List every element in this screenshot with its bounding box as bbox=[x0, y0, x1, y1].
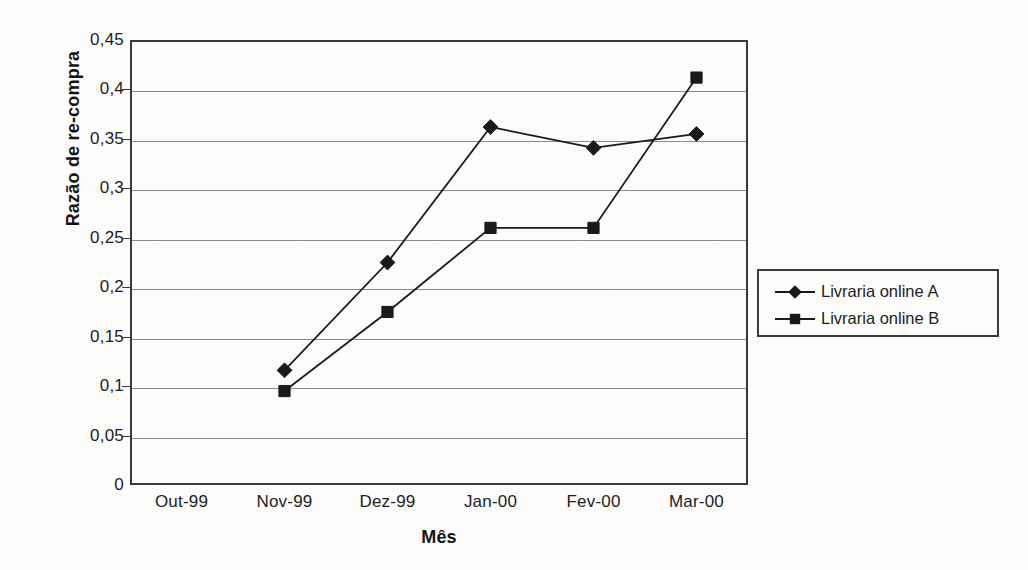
x-axis-title: Mês bbox=[130, 527, 748, 548]
chart-legend: Livraria online ALivraria online B bbox=[757, 269, 999, 337]
diamond-marker-icon bbox=[773, 284, 817, 300]
x-axis-tick-label: Dez-99 bbox=[328, 492, 448, 512]
square-marker-icon bbox=[691, 72, 702, 83]
square-marker-icon bbox=[485, 222, 496, 233]
legend-label: Livraria online A bbox=[821, 282, 938, 301]
diamond-marker-icon bbox=[689, 127, 704, 142]
square-marker-icon bbox=[279, 385, 290, 396]
series-line bbox=[285, 127, 697, 370]
y-axis-tick-label: 0 bbox=[24, 475, 124, 495]
x-axis-tick-label: Nov-99 bbox=[225, 492, 345, 512]
y-axis-tick-label: 0,1 bbox=[24, 376, 124, 396]
line-chart: 00,050,10,150,20,250,30,350,40,45 Razão … bbox=[0, 0, 1028, 570]
legend-item-b[interactable]: Livraria online B bbox=[759, 305, 997, 332]
legend-label: Livraria online B bbox=[821, 309, 939, 328]
y-axis-tick-label: 0,2 bbox=[24, 277, 124, 297]
diamond-marker-icon bbox=[483, 120, 498, 135]
y-axis-title: Razão de re-compra bbox=[63, 4, 84, 274]
scanned-page: 00,050,10,150,20,250,30,350,40,45 Razão … bbox=[0, 0, 1028, 570]
square-marker-icon bbox=[773, 311, 817, 327]
x-axis-tick-label: Fev-00 bbox=[534, 492, 654, 512]
square-marker-icon bbox=[588, 222, 599, 233]
x-axis-tick-labels: Out-99Nov-99Dez-99Jan-00Fev-00Mar-00 bbox=[130, 492, 748, 520]
diamond-marker-icon bbox=[586, 140, 601, 155]
legend-item-a[interactable]: Livraria online A bbox=[759, 278, 997, 305]
x-axis-tick-label: Mar-00 bbox=[637, 492, 757, 512]
square-marker-icon bbox=[382, 306, 393, 317]
y-axis-tick-label: 0,05 bbox=[24, 426, 124, 446]
y-axis-tick-label: 0,15 bbox=[24, 327, 124, 347]
series-a bbox=[277, 120, 704, 378]
data-series-layer bbox=[130, 40, 748, 485]
x-axis-tick-label: Out-99 bbox=[122, 492, 242, 512]
x-axis-tick-label: Jan-00 bbox=[431, 492, 551, 512]
